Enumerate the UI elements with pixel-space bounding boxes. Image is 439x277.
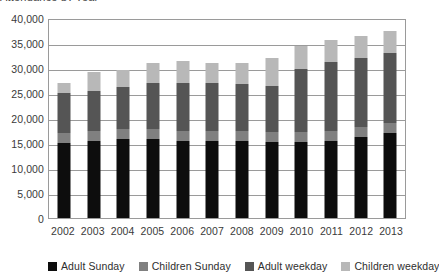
stacked-bar[interactable] [117,70,130,219]
bar-segment [206,83,219,131]
legend-item[interactable]: Adult weekday [245,260,328,272]
bar-slot [108,20,138,218]
bar-slot [168,20,198,218]
y-tick-label: 30,000 [0,63,44,75]
bar-segment [117,87,130,130]
bar-slot [227,20,257,218]
bar-segment [87,72,100,91]
bar-segment [235,63,248,84]
bar-segment [57,83,70,93]
stacked-bar[interactable] [324,40,337,219]
bar-segment [324,141,337,219]
y-tick-label: 20,000 [0,113,44,125]
y-tick-label: 35,000 [0,38,44,50]
y-tick-label: 0 [0,213,44,225]
bar-segment [354,36,367,58]
bar-segment [117,139,130,218]
bar-segment [295,132,308,142]
bar-segment [176,83,189,131]
bar-group [49,20,405,218]
x-tick-label: 2013 [376,225,406,241]
bar-segment [235,141,248,219]
bar-segment [324,131,337,141]
stacked-bar[interactable] [87,72,100,218]
bar-segment [265,58,278,86]
x-tick-label: 2003 [78,225,108,241]
bar-slot [49,20,79,218]
legend-label: Adult weekday [258,260,328,272]
bar-slot [79,20,109,218]
legend-swatch-icon [48,262,57,271]
y-tick-label: 10,000 [0,163,44,175]
bar-segment [87,91,100,131]
stacked-bar[interactable] [206,63,219,218]
bar-slot [197,20,227,218]
bar-segment [384,133,397,218]
bar-segment [117,70,130,87]
stacked-bar[interactable] [235,63,248,218]
legend-item[interactable]: Adult Sunday [48,260,125,272]
bar-slot [346,20,376,218]
bar-segment [235,131,248,141]
bar-segment [295,46,308,69]
bar-segment [265,142,278,219]
bar-segment [57,133,70,143]
y-tick-label: 15,000 [0,138,44,150]
x-tick-label: 2010 [287,225,317,241]
bar-segment [295,69,308,133]
chart-title-clipped: Attendance by year [0,0,414,1]
x-tick-label: 2002 [48,225,78,241]
stacked-bar[interactable] [265,58,278,219]
bar-segment [146,139,159,219]
legend-label: Children weekday [354,260,439,272]
bar-segment [324,40,337,63]
bar-segment [87,131,100,141]
bar-segment [235,84,248,131]
bar-segment [384,123,397,133]
bar-segment [146,129,159,139]
bar-segment [354,137,367,218]
bar-segment [176,61,189,83]
bar-segment [176,131,189,141]
stacked-bar[interactable] [176,61,189,218]
x-tick-label: 2004 [108,225,138,241]
legend-swatch-icon [341,262,350,271]
legend-swatch-icon [245,262,254,271]
legend-item[interactable]: Children Sunday [139,260,231,272]
bar-segment [206,63,219,83]
bar-segment [57,143,70,218]
legend-item[interactable]: Children weekday [341,260,439,272]
bar-segment [384,31,397,54]
legend-label: Adult Sunday [61,260,125,272]
x-tick-label: 2012 [346,225,376,241]
bar-segment [354,127,367,137]
bar-slot [138,20,168,218]
x-tick-label: 2006 [167,225,197,241]
y-axis-labels: 40,00035,00030,00025,00020,00015,00010,0… [0,0,44,240]
bar-segment [206,141,219,218]
bar-segment [265,86,278,132]
bar-segment [146,83,159,129]
bar-segment [384,53,397,123]
bar-segment [354,58,367,128]
bar-slot [257,20,287,218]
stacked-bar[interactable] [57,83,70,218]
y-tick-label: 5,000 [0,188,44,200]
bar-segment [295,142,308,218]
bar-segment [176,141,189,218]
stacked-bar[interactable] [384,31,397,219]
x-tick-label: 2007 [197,225,227,241]
chart-legend: Adult SundayChildren SundayAdult weekday… [48,258,414,274]
bar-segment [146,63,159,83]
bar-segment [117,129,130,139]
stacked-bar[interactable] [295,46,308,218]
x-tick-label: 2005 [137,225,167,241]
stacked-bar[interactable] [146,63,159,218]
stacked-bar[interactable] [354,36,367,218]
bar-segment [87,141,100,218]
x-tick-label: 2011 [316,225,346,241]
bar-slot [316,20,346,218]
bar-segment [265,132,278,142]
legend-label: Children Sunday [152,260,231,272]
